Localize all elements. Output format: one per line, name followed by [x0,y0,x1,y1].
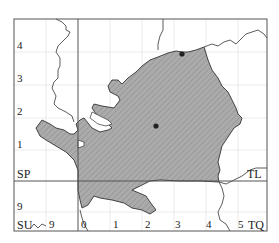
grid-square-label-tl: TL [247,168,262,180]
grid-square-label-tq: TQ [248,219,264,231]
x-tick: 2 [145,219,151,230]
grid-square-label-su: SU [17,219,32,231]
record-dot [153,123,158,128]
y-tick: 4 [17,40,23,51]
y-tick: 3 [17,73,23,84]
y-tick: 9 [17,201,23,212]
y-tick: 1 [17,139,23,150]
x-tick: 5 [238,219,244,230]
grid-square-label-sp: SP [17,168,30,180]
record-dot [179,51,184,56]
y-tick: 2 [17,106,23,117]
x-tick: 0 [81,219,87,230]
distribution-map [0,0,279,243]
county-shaded-area [36,47,242,214]
x-tick: 1 [113,219,119,230]
x-tick: 9 [49,219,55,230]
x-tick: 4 [206,219,212,230]
x-tick: 3 [175,219,181,230]
